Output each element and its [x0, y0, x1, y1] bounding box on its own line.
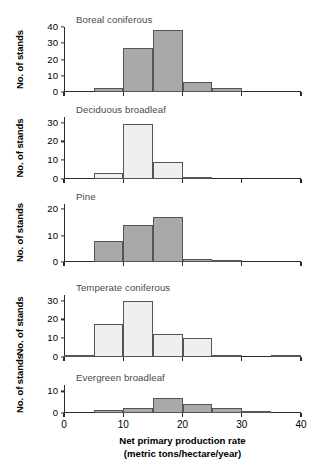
y-tick-mark [61, 300, 65, 301]
histogram-bar [94, 241, 124, 262]
x-tick-mark [63, 413, 64, 417]
x-tick-label: 30 [236, 419, 247, 430]
panel-5: Evergreen broadleaf010010203040 [64, 385, 301, 413]
y-tick-mark [61, 235, 65, 236]
y-axis-title-text: No. of stands [14, 385, 25, 413]
histogram-bar [153, 217, 183, 262]
y-tick-label: 10 [47, 71, 58, 81]
y-tick-label: 10 [47, 387, 58, 397]
y-tick-label: 30 [47, 118, 58, 128]
panel-2: Deciduous broadleaf0102030 [64, 117, 301, 179]
x-tick-mark [123, 92, 124, 96]
y-axis-title: No. of stands [14, 385, 28, 396]
y-tick-label: 10 [47, 155, 58, 165]
y-tick-mark [61, 26, 65, 27]
x-tick-mark [123, 413, 124, 417]
histogram-bar [94, 410, 124, 413]
x-tick-mark [182, 413, 183, 417]
panel-title: Temperate coniferous [76, 282, 170, 293]
y-tick-label: 0 [53, 352, 58, 362]
panel-title: Evergreen broadleaf [76, 372, 165, 383]
panel-title: Pine [76, 191, 96, 202]
y-tick-label: 0 [53, 408, 58, 418]
y-tick-label: 20 [47, 204, 58, 214]
y-tick-label: 30 [47, 38, 58, 48]
panel-1: Boreal coniferous010203040 [64, 27, 301, 92]
histogram-bar [123, 48, 153, 92]
histogram-bar [123, 408, 153, 413]
x-tick-mark [63, 179, 64, 183]
y-axis-title-text: No. of stands [14, 27, 25, 92]
y-tick-mark [61, 43, 65, 44]
x-tick-mark [63, 357, 64, 361]
histogram-bar [123, 124, 153, 179]
x-tick-mark [241, 179, 242, 183]
x-tick-label: 0 [61, 419, 67, 430]
histogram-bar [183, 177, 213, 179]
x-tick-mark [63, 262, 64, 266]
y-axis-title: No. of stands [14, 117, 28, 128]
histogram-bar [123, 225, 153, 262]
histogram-bar [271, 355, 301, 357]
y-tick-mark [61, 160, 65, 161]
x-tick-mark [300, 357, 301, 361]
x-tick-mark [182, 357, 183, 361]
y-tick-mark [61, 59, 65, 60]
histogram-bar [212, 355, 242, 357]
y-tick-label: 0 [53, 257, 58, 267]
x-tick-mark [300, 262, 301, 266]
histogram-figure: Boreal coniferous010203040No. of standsD… [0, 0, 318, 465]
histogram-bar [94, 324, 124, 357]
x-tick-label: 20 [177, 419, 188, 430]
y-tick-label: 0 [53, 87, 58, 97]
y-tick-label: 20 [47, 55, 58, 65]
histogram-bar [153, 162, 183, 179]
y-tick-mark [61, 338, 65, 339]
x-tick-mark [241, 262, 242, 266]
y-axis-title: No. of stands [14, 204, 28, 215]
x-tick-mark [182, 92, 183, 96]
x-tick-mark [241, 92, 242, 96]
x-tick-mark [241, 357, 242, 361]
x-tick-mark [123, 357, 124, 361]
y-axis-title: No. of stands [14, 27, 28, 38]
histogram-bar [153, 398, 183, 413]
x-tick-mark [182, 179, 183, 183]
histogram-bar [212, 88, 242, 92]
y-tick-mark [61, 141, 65, 142]
y-tick-label: 10 [47, 231, 58, 241]
x-axis-title: Net primary production rate(metric tons/… [64, 435, 301, 460]
histogram-bar [212, 260, 242, 262]
y-tick-label: 30 [47, 296, 58, 306]
y-tick-mark [61, 75, 65, 76]
histogram-bar [123, 301, 153, 357]
histogram-bar [183, 259, 213, 262]
histogram-bar [212, 408, 242, 413]
histogram-bar [153, 334, 183, 357]
y-tick-label: 0 [53, 174, 58, 184]
y-tick-mark [61, 209, 65, 210]
histogram-bar [242, 411, 272, 413]
x-axis-title-line1: Net primary production rate [64, 435, 301, 448]
y-tick-label: 10 [47, 333, 58, 343]
y-axis-title-text: No. of stands [14, 204, 25, 262]
y-tick-label: 20 [47, 137, 58, 147]
x-tick-mark [300, 92, 301, 96]
x-tick-mark [300, 179, 301, 183]
x-tick-mark [123, 262, 124, 266]
y-axis-title: No. of stands [14, 295, 28, 306]
panel-title: Boreal coniferous [76, 14, 152, 25]
histogram-bar [94, 88, 124, 92]
x-tick-mark [241, 413, 242, 417]
panel-title: Deciduous broadleaf [76, 104, 166, 115]
y-axis-title-text: No. of stands [14, 117, 25, 179]
y-tick-mark [61, 122, 65, 123]
panel-3: Pine01020 [64, 204, 301, 262]
x-axis-title-line2: (metric tons/hectare/year) [64, 448, 301, 461]
histogram-bar [64, 355, 94, 357]
histogram-bar [183, 82, 213, 92]
x-tick-mark [63, 92, 64, 96]
plot-area [64, 117, 301, 179]
histogram-bar [183, 338, 213, 357]
y-axis-title-text: No. of stands [14, 295, 25, 357]
